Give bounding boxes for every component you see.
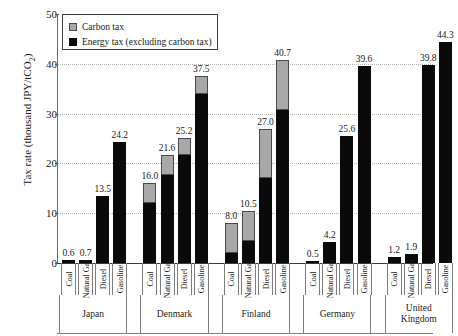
- bar-segment-energy-tax: [96, 196, 109, 263]
- x-axis-group-label: Germany: [320, 309, 355, 320]
- x-axis-category-label: Coal: [390, 271, 399, 286]
- bar-segment-energy-tax: [143, 203, 156, 263]
- bar-segment-carbon-tax: [242, 211, 255, 241]
- bar-value-label: 39.6: [341, 54, 387, 64]
- bar-value-label: 24.2: [97, 130, 143, 140]
- legend-item-energy-tax: Energy tax (excluding carbon tax): [69, 34, 211, 49]
- x-axis-category-label: Diesel: [180, 269, 189, 289]
- bar: [225, 223, 238, 263]
- x-axis-category-label: Diesel: [261, 269, 270, 289]
- x-axis-group-labels: JapanDenmarkFinlandGermanyUnitedKingdom: [57, 295, 433, 334]
- bar: [195, 76, 208, 263]
- x-axis-category-cell: Coal: [387, 263, 402, 295]
- x-axis-category-cell: Coal: [305, 263, 320, 295]
- bar-segment-energy-tax: [358, 66, 371, 263]
- x-axis-category-cell: Diesel: [95, 263, 110, 295]
- x-axis-category-label: Gasoline: [360, 265, 369, 293]
- bar-value-label: 37.5: [178, 64, 224, 74]
- y-axis-tick-label: 50: [31, 14, 57, 15]
- x-axis-category-cell: Diesel: [339, 263, 354, 295]
- bar-segment-carbon-tax: [225, 223, 238, 253]
- x-axis-category-label: Natural Gas: [81, 260, 90, 298]
- y-axis-ticks: 01020304050: [0, 0, 57, 336]
- bar: [161, 155, 174, 263]
- x-axis-category-cell: Coal: [142, 263, 157, 295]
- x-axis-group-label: UnitedKingdom: [401, 303, 437, 325]
- x-axis-category-cell: Gasoline: [275, 263, 290, 295]
- x-axis-group-label: Denmark: [157, 309, 192, 320]
- x-axis-category-label: Gasoline: [441, 265, 450, 293]
- carbon-tax-swatch-icon: [69, 23, 77, 31]
- bar-segment-energy-tax: [259, 178, 272, 263]
- bar: [143, 183, 156, 263]
- x-axis-category-cell: Gasoline: [112, 263, 127, 295]
- bar: [276, 60, 289, 263]
- bar: [439, 42, 452, 263]
- x-axis-category-label: Gasoline: [278, 265, 287, 293]
- bar-value-label: 40.7: [260, 48, 306, 58]
- bar-segment-energy-tax: [340, 136, 353, 263]
- x-axis-category-label: Natural Gas: [407, 260, 416, 298]
- bar-segment-energy-tax: [161, 175, 174, 263]
- x-axis-category-label: Natural Gas: [244, 260, 253, 298]
- x-axis-group-label: Japan: [82, 309, 104, 320]
- bar-segment-carbon-tax: [161, 155, 174, 175]
- bar-segment-energy-tax: [113, 142, 126, 263]
- x-axis-category-label: Gasoline: [115, 265, 124, 293]
- bar: [358, 66, 371, 263]
- x-axis-category-cell: Natural Gas: [404, 263, 419, 295]
- bar-segment-energy-tax: [195, 94, 208, 263]
- x-axis-group-label: Finland: [241, 309, 270, 320]
- bar: [422, 65, 435, 263]
- legend-label-carbon-tax: Carbon tax: [82, 22, 124, 32]
- x-axis-category-label: Natural Gas: [163, 260, 172, 298]
- x-axis-category-cell: Natural Gas: [160, 263, 175, 295]
- bar-segment-energy-tax: [178, 155, 191, 263]
- bar: [113, 142, 126, 263]
- y-axis-tick-label: 20: [31, 163, 57, 164]
- y-axis-tick-label: 10: [31, 213, 57, 214]
- x-axis-category-cell: Natural Gas: [241, 263, 256, 295]
- bar: [340, 136, 353, 263]
- x-axis-group-cell: Japan: [59, 295, 127, 333]
- bar-segment-carbon-tax: [178, 138, 191, 155]
- bar: [178, 138, 191, 263]
- y-axis-tick-label: 0: [31, 263, 57, 264]
- y-axis-tick-label: 40: [31, 64, 57, 65]
- y-axis-tick-label: 30: [31, 114, 57, 115]
- x-axis-category-cell: Gasoline: [194, 263, 209, 295]
- x-axis-category-labels: CoalNatural GasDieselGasolineCoalNatural…: [57, 263, 433, 295]
- legend-item-carbon-tax: Carbon tax: [69, 19, 211, 34]
- x-axis-category-label: Coal: [308, 271, 317, 286]
- x-axis-category-cell: Diesel: [258, 263, 273, 295]
- x-axis-category-label: Coal: [145, 271, 154, 286]
- legend: Carbon tax Energy tax (excluding carbon …: [62, 14, 218, 50]
- x-axis-group-cell: Finland: [222, 295, 290, 333]
- bar-segment-carbon-tax: [143, 183, 156, 203]
- plot-area: 0.60.713.524.216.021.625.237.58.010.527.…: [58, 14, 433, 263]
- x-axis-category-cell: Diesel: [421, 263, 436, 295]
- x-axis-category-label: Natural Gas: [325, 260, 334, 298]
- x-axis-group-cell: UnitedKingdom: [385, 295, 453, 333]
- energy-tax-swatch-icon: [69, 38, 77, 46]
- x-axis-category-label: Gasoline: [197, 265, 206, 293]
- bar: [96, 196, 109, 263]
- x-axis-category-label: Diesel: [98, 269, 107, 289]
- bar-segment-carbon-tax: [195, 76, 208, 93]
- x-axis-category-cell: Gasoline: [438, 263, 453, 295]
- gridline: [58, 114, 433, 115]
- x-axis-group-cell: Germany: [303, 295, 371, 333]
- x-axis-group-cell: Denmark: [140, 295, 208, 333]
- gridline: [58, 64, 433, 65]
- bar: [242, 211, 255, 263]
- x-axis-category-label: Coal: [227, 271, 236, 286]
- x-axis-category-label: Diesel: [342, 269, 351, 289]
- bar-segment-energy-tax: [225, 253, 238, 263]
- bar-value-label: 44.3: [422, 30, 458, 40]
- x-axis-category-cell: Gasoline: [357, 263, 372, 295]
- bar-segment-carbon-tax: [259, 129, 272, 179]
- x-axis-category-cell: Diesel: [177, 263, 192, 295]
- bar: [259, 129, 272, 263]
- x-axis-category-label: Coal: [64, 271, 73, 286]
